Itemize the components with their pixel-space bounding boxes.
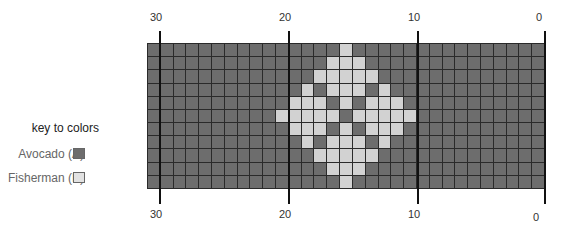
grid-cell-a: [379, 176, 391, 188]
grid-cell-a: [481, 70, 493, 82]
grid-cell-a: [314, 136, 326, 148]
grid-cell-a: [289, 70, 301, 82]
grid-cell-a: [199, 163, 211, 175]
grid-cell-a: [161, 136, 173, 148]
grid-cell-a: [519, 176, 531, 188]
grid-cell-a: [455, 136, 467, 148]
grid-cell-a: [250, 123, 262, 135]
grid-cell-a: [391, 176, 403, 188]
grid-cell-a: [302, 57, 314, 69]
grid-cell-a: [263, 84, 275, 96]
grid-cell-a: [263, 149, 275, 161]
grid-cell-a: [519, 70, 531, 82]
grid-cell-a: [199, 57, 211, 69]
grid-cell-b: [353, 110, 365, 122]
grid-cell-a: [532, 163, 544, 175]
grid-cell-a: [379, 70, 391, 82]
grid-cell-a: [494, 176, 506, 188]
grid-cell-a: [199, 97, 211, 109]
grid-cell-a: [430, 70, 442, 82]
grid-cell-a: [174, 97, 186, 109]
grid-cell-a: [289, 176, 301, 188]
grid-cell-a: [263, 110, 275, 122]
grid-cell-a: [238, 97, 250, 109]
grid-cell-a: [212, 84, 224, 96]
grid-cell-a: [391, 84, 403, 96]
grid-cell-b: [340, 163, 352, 175]
grid-cell-a: [455, 70, 467, 82]
grid-cell-a: [199, 110, 211, 122]
grid-cell-a: [481, 123, 493, 135]
grid-cell-b: [340, 149, 352, 161]
grid-cell-a: [161, 163, 173, 175]
grid-cell-a: [174, 123, 186, 135]
grid-cell-a: [443, 97, 455, 109]
grid-cell-a: [507, 123, 519, 135]
grid-cell-a: [468, 57, 480, 69]
grid-cell-a: [366, 57, 378, 69]
grid-cell-a: [225, 136, 237, 148]
grid-cell-a: [468, 44, 480, 56]
grid-cell-a: [519, 163, 531, 175]
grid-cell-a: [199, 176, 211, 188]
grid-cell-a: [430, 84, 442, 96]
grid-cell-a: [174, 149, 186, 161]
grid-cell-a: [443, 70, 455, 82]
grid-cell-a: [532, 57, 544, 69]
grid-cell-a: [289, 149, 301, 161]
grid-cell-a: [186, 163, 198, 175]
grid-cell-a: [212, 123, 224, 135]
grid-cell-a: [276, 149, 288, 161]
grid-cell-b: [314, 123, 326, 135]
grid-cell-a: [212, 176, 224, 188]
grid-cell-a: [186, 123, 198, 135]
top-scale-label-30: 30: [150, 12, 162, 23]
top-scale-label-20: 20: [279, 12, 291, 23]
grid-cell-b: [353, 136, 365, 148]
grid-cell-a: [507, 57, 519, 69]
grid-cell-a: [404, 70, 416, 82]
grid-cell-a: [161, 110, 173, 122]
grid-cell-a: [430, 57, 442, 69]
grid-cell-a: [404, 84, 416, 96]
grid-cell-a: [494, 123, 506, 135]
grid-cell-a: [430, 44, 442, 56]
grid-cell-a: [161, 84, 173, 96]
grid-cell-a: [379, 44, 391, 56]
grid-cell-a: [238, 44, 250, 56]
grid-cell-a: [443, 136, 455, 148]
grid-cell-a: [250, 84, 262, 96]
grid-cell-a: [481, 44, 493, 56]
grid-cell-a: [494, 70, 506, 82]
scale-line-20: [288, 31, 290, 204]
grid-cell-b: [391, 110, 403, 122]
grid-cell-a: [455, 57, 467, 69]
grid-cell-a: [212, 97, 224, 109]
grid-cell-a: [430, 97, 442, 109]
grid-cell-b: [340, 57, 352, 69]
grid-cell-a: [443, 110, 455, 122]
grid-cell-a: [519, 149, 531, 161]
grid-cell-b: [353, 70, 365, 82]
grid-cell-a: [481, 84, 493, 96]
grid-cell-a: [161, 44, 173, 56]
grid-cell-b: [314, 110, 326, 122]
grid-cell-a: [507, 70, 519, 82]
grid-cell-a: [186, 176, 198, 188]
grid-cell-a: [174, 57, 186, 69]
grid-cell-a: [199, 123, 211, 135]
grid-cell-a: [314, 84, 326, 96]
grid-cell-a: [366, 163, 378, 175]
grid-cell-a: [225, 84, 237, 96]
grid-cell-b: [289, 97, 301, 109]
grid-cell-b: [379, 110, 391, 122]
grid-cell-b: [379, 123, 391, 135]
grid-cell-a: [366, 84, 378, 96]
grid-cell-a: [391, 57, 403, 69]
grid-cell-a: [391, 163, 403, 175]
fisherman-swatch: [73, 172, 85, 183]
grid-cell-a: [327, 176, 339, 188]
grid-cell-a: [250, 44, 262, 56]
grid-cell-a: [314, 57, 326, 69]
grid-cell-b: [314, 149, 326, 161]
